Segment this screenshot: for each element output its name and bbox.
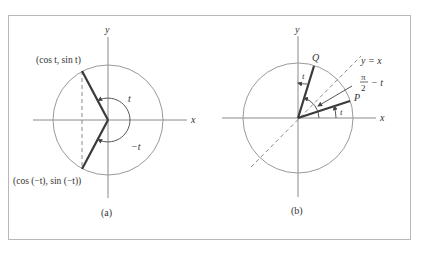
radius-to-q <box>298 66 314 118</box>
complement-rest: − t <box>371 77 383 88</box>
complement-numerator: π <box>361 72 366 82</box>
complement-denominator: 2 <box>361 83 366 93</box>
angle-t-label: t <box>128 93 131 104</box>
line-y-equals-x-label: y = x <box>360 55 382 66</box>
panel-b: y x Q P y = x t t π 2 − t (b) <box>222 24 385 217</box>
y-axis-label: y <box>294 24 300 35</box>
angle-t-arc-p <box>334 106 336 118</box>
figure-frame <box>9 16 411 240</box>
angle-t-label-p: t <box>340 107 343 117</box>
panel-a: y x (cos t, sin t) (cos (−t), sin (−t)) … <box>13 24 196 219</box>
caption-b: (b) <box>291 205 303 217</box>
angle-t-arc-q <box>298 83 307 84</box>
angle-neg-t-label: −t <box>131 141 141 152</box>
point-top-label: (cos t, sin t) <box>36 55 81 66</box>
caption-a: (a) <box>101 207 112 219</box>
point-q-label: Q <box>312 52 320 63</box>
x-axis-label: x <box>379 112 385 123</box>
radius-to-neg-t <box>82 120 108 169</box>
point-p-label: P <box>353 92 360 103</box>
y-axis-label: y <box>104 24 110 35</box>
angle-t-label-q: t <box>302 71 305 81</box>
unit-circle-figure: y x (cos t, sin t) (cos (−t), sin (−t)) … <box>0 0 424 254</box>
point-bottom-label: (cos (−t), sin (−t)) <box>13 176 81 187</box>
x-axis-label: x <box>190 114 196 125</box>
radius-to-t <box>82 71 108 120</box>
